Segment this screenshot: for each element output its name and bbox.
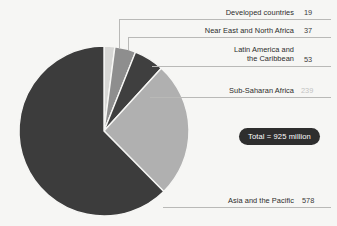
leader-line-elbow [119,19,183,20]
slice-value: 19 [304,8,312,17]
leader-line [162,37,331,38]
slice-label: Latin America and the Caribbean [176,45,294,64]
leader-line [150,97,331,98]
slice-label: Near East and North Africa [176,26,294,35]
leader-line [152,66,331,67]
slice-label: Asia and the Pacific [196,196,294,205]
slice-label: Sub-Saharan Africa [196,86,294,95]
slice-value: 53 [304,55,312,64]
slice-label: Developed countries [196,8,294,17]
total-badge: Total = 925 million [239,128,320,145]
leader-line-drop [128,37,129,50]
leader-line [183,19,331,20]
slice-value: 239 [301,86,313,95]
leader-line-drop [119,19,120,48]
slice-value: 578 [302,196,314,205]
slice-value: 37 [304,26,312,35]
pie-chart-figure: Developed countries19Near East and North… [0,0,337,226]
leader-line-elbow [128,37,162,38]
leader-line [163,207,331,208]
